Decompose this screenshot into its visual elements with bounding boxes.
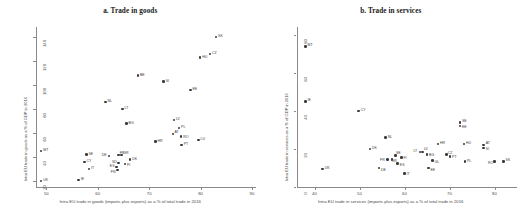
data-point xyxy=(386,158,389,161)
data-point-label: DK xyxy=(372,147,377,151)
x-tick-label: 50 xyxy=(37,191,55,196)
x-axis-line xyxy=(297,187,517,188)
data-point xyxy=(437,143,440,146)
data-point xyxy=(369,148,372,151)
y-tick xyxy=(33,133,36,134)
y-tick xyxy=(33,61,36,62)
x-tick xyxy=(201,187,202,190)
data-point-label: AT xyxy=(174,131,178,135)
data-point xyxy=(104,101,107,104)
data-point-label: LT xyxy=(413,150,417,154)
x-tick xyxy=(98,187,99,190)
y-tick xyxy=(33,109,36,110)
data-point-label: MT xyxy=(43,149,48,153)
y-tick xyxy=(294,187,297,188)
x-tick-label: 80 xyxy=(486,191,504,196)
y-tick xyxy=(33,181,36,182)
y-tick-label: 100 xyxy=(42,85,47,97)
panel-a-plot-area: 204060801001201405060708090Intra EU trad… xyxy=(0,0,261,224)
data-point-label: LU xyxy=(201,138,205,142)
data-point xyxy=(124,163,127,166)
data-point-label: IT xyxy=(407,173,410,177)
data-point xyxy=(426,153,429,156)
x-tick-label: 50 xyxy=(351,191,369,196)
data-point-label: CY xyxy=(361,109,366,113)
y-tick-label: 140 xyxy=(42,37,47,49)
x-tick xyxy=(405,187,406,190)
data-point-label: EE xyxy=(430,169,435,173)
data-point-label: LV xyxy=(176,118,180,122)
data-point xyxy=(502,160,505,163)
y-tick xyxy=(33,157,36,158)
data-point xyxy=(108,155,111,158)
data-point xyxy=(125,122,128,125)
y-tick-label: 40 xyxy=(302,111,307,123)
data-point xyxy=(304,100,307,103)
data-point-label: BG xyxy=(129,122,134,126)
panel-b-plot-area: 0204060804050607080Intra EU trade in ser… xyxy=(261,0,521,224)
data-point-label: SK xyxy=(506,159,511,163)
x-tick-label: 60 xyxy=(396,191,414,196)
data-point-label: FR xyxy=(380,159,385,163)
data-point-label: SE xyxy=(462,120,467,124)
y-tick xyxy=(294,149,297,150)
data-point-label: IE xyxy=(308,99,311,103)
data-point xyxy=(180,144,183,147)
data-point-label: LT xyxy=(125,107,129,111)
data-point-label: SK xyxy=(218,35,223,39)
data-point-label: UK xyxy=(43,179,48,183)
data-point-label: SE xyxy=(396,152,401,156)
data-point-label: HU xyxy=(466,142,471,146)
data-point-label: ES xyxy=(400,164,405,168)
data-point-label: NL xyxy=(388,136,392,140)
data-point xyxy=(384,136,387,139)
y-tick xyxy=(33,37,36,38)
x-axis-line xyxy=(36,187,256,188)
two-panel-scatter-figure: a. Trade in goods 2040608010012014050607… xyxy=(0,0,521,224)
data-point-label: GL xyxy=(435,161,440,165)
data-point-label: FI xyxy=(403,157,406,161)
data-point xyxy=(482,147,485,150)
data-point xyxy=(449,155,452,158)
x-tick-label: 80 xyxy=(192,191,210,196)
data-point-label: RO xyxy=(183,136,188,140)
data-point-label: CY xyxy=(86,160,91,164)
x-tick-label: 70 xyxy=(441,191,459,196)
data-point xyxy=(77,179,80,182)
data-point xyxy=(400,156,403,159)
data-point-label: SI xyxy=(166,80,169,84)
x-tick-label: 60 xyxy=(89,191,107,196)
y-tick-label: 40 xyxy=(42,157,47,169)
data-point xyxy=(321,168,324,171)
data-point-label: HR xyxy=(157,140,162,144)
y-tick-label: 120 xyxy=(42,61,47,73)
data-point xyxy=(189,89,192,92)
data-point xyxy=(463,143,466,146)
y-tick xyxy=(294,73,297,74)
data-point-label: AT xyxy=(486,142,490,146)
y-tick xyxy=(33,85,36,86)
x-tick-label: 90 xyxy=(243,191,261,196)
data-point-label: SI xyxy=(486,148,489,152)
data-point-label: LV xyxy=(424,148,428,152)
data-point-label: DE xyxy=(102,154,107,158)
data-point-label: CZ xyxy=(212,52,217,56)
panel-trade-in-services: b. Trade in services 0204060804050607080… xyxy=(261,0,521,224)
panel-trade-in-goods: a. Trade in goods 2040608010012014050607… xyxy=(0,0,261,224)
x-tick xyxy=(315,187,316,190)
x-tick-label: 40 xyxy=(306,191,324,196)
data-point-label: PT xyxy=(452,156,456,160)
data-point-label: UK xyxy=(325,167,330,171)
data-point xyxy=(154,140,157,143)
data-point xyxy=(459,125,462,128)
data-point xyxy=(464,160,467,163)
data-point-label: BE xyxy=(140,74,145,78)
data-point-label: BG xyxy=(429,154,434,158)
data-point xyxy=(40,150,43,153)
data-point-label: FN xyxy=(111,171,116,175)
data-point-label: ES xyxy=(110,165,115,169)
data-point xyxy=(162,80,165,83)
data-point-label: GR xyxy=(123,152,128,156)
x-tick xyxy=(149,187,150,190)
data-point xyxy=(83,161,86,164)
